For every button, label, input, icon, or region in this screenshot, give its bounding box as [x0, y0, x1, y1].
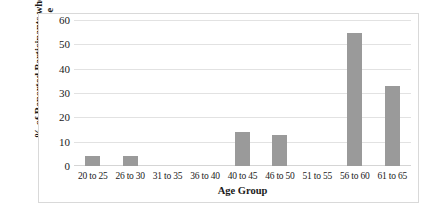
plot-area: [74, 20, 411, 166]
y-tick-label: 30: [44, 88, 70, 99]
bar-40-to-45: [235, 132, 250, 166]
y-tick-label: 20: [44, 112, 70, 123]
bar-slot: [111, 20, 148, 166]
bar-slot: [261, 20, 298, 166]
bar-slot: [224, 20, 261, 166]
x-axis-title: Age Group: [74, 185, 411, 197]
bar-slot: [336, 20, 373, 166]
bar-slot: [186, 20, 223, 166]
x-tick-label: 20 to 25: [74, 170, 111, 184]
bar-61-to-65: [385, 86, 400, 166]
x-tick-label: 61 to 65: [374, 170, 411, 184]
x-axis-tick-labels: 20 to 25 26 to 30 31 to 35 36 to 40 40 t…: [74, 170, 411, 184]
bar-slot: [299, 20, 336, 166]
y-axis-tick-labels: 60 50 40 30 20 10 0: [40, 20, 70, 166]
bar-56-to-60: [347, 33, 362, 166]
y-tick-label: 0: [44, 161, 70, 172]
bars-layer: [74, 20, 411, 166]
bar-20-to-25: [85, 156, 100, 166]
y-tick-label: 50: [44, 39, 70, 50]
x-tick-label: 26 to 30: [111, 170, 148, 184]
y-tick-label: 40: [44, 64, 70, 75]
bar-slot: [149, 20, 186, 166]
bar-slot: [374, 20, 411, 166]
bar-slot: [74, 20, 111, 166]
x-tick-label: 56 to 60: [336, 170, 373, 184]
bar-chart-figure: % of Reported Participants who selected …: [0, 0, 424, 213]
x-tick-label: 51 to 55: [299, 170, 336, 184]
x-tick-label: 46 to 50: [261, 170, 298, 184]
bar-46-to-50: [272, 135, 287, 166]
bar-26-to-30: [123, 156, 138, 166]
x-tick-label: 40 to 45: [224, 170, 261, 184]
y-tick-label: 60: [44, 15, 70, 26]
x-tick-label: 36 to 40: [186, 170, 223, 184]
x-tick-label: 31 to 35: [149, 170, 186, 184]
y-tick-label: 10: [44, 137, 70, 148]
